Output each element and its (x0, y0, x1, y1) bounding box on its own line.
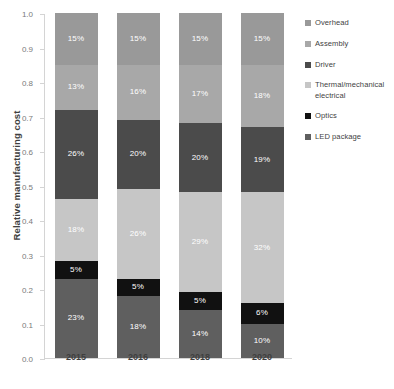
legend-label: LED package (315, 132, 361, 142)
bar-segment: 17% (179, 65, 222, 124)
bar-segment: 5% (117, 279, 160, 296)
bar-segment: 6% (241, 303, 284, 324)
x-axis-label-2016: 2016 (108, 352, 168, 362)
bar-segment: 23% (55, 279, 98, 358)
y-axis-tick-label: 0.8 (22, 79, 33, 88)
legend-swatch-icon (305, 134, 311, 140)
bar-segment-label: 5% (70, 266, 82, 274)
legend-swatch-icon (305, 41, 311, 47)
bar-segment: 15% (117, 13, 160, 65)
bar-segment-label: 32% (254, 244, 271, 252)
stacked-bar-chart: Relative manufacturing cost 0.00.10.20.3… (0, 0, 394, 389)
bar-segment: 5% (55, 261, 98, 278)
bar-segment: 13% (55, 65, 98, 110)
legend-item[interactable]: Optics (305, 111, 394, 121)
bar-2015[interactable]: 23%5%18%26%13%15% (55, 13, 98, 358)
bar-segment-label: 16% (130, 88, 147, 96)
legend-label: Driver (315, 60, 336, 70)
bar-segment: 14% (179, 310, 222, 358)
bar-segment-label: 19% (254, 156, 271, 164)
bar-segment-label: 29% (192, 238, 209, 246)
plot-area: 0.00.10.20.30.40.50.60.70.80.91.0 23%5%1… (44, 14, 292, 359)
bar-segment-label: 20% (130, 150, 147, 158)
y-axis-tick: 0.9 (40, 49, 45, 50)
bar-segment: 18% (117, 296, 160, 358)
legend-label: Optics (315, 111, 337, 121)
legend-item[interactable]: Driver (305, 60, 394, 70)
y-axis-tick: 0.7 (40, 118, 45, 119)
y-axis-tick-label: 0.5 (22, 182, 33, 191)
bar-segment: 32% (241, 192, 284, 302)
legend-item[interactable]: Overhead (305, 18, 394, 28)
bar-segment-label: 5% (194, 297, 206, 305)
bar-2016[interactable]: 18%5%26%20%16%15% (117, 13, 160, 358)
bar-segment-label: 15% (192, 35, 209, 43)
bar-segment-label: 18% (254, 92, 271, 100)
y-axis-tick: 0.5 (40, 187, 45, 188)
bar-segment: 15% (241, 13, 284, 65)
bar-segment: 5% (179, 292, 222, 309)
y-axis-title: Relative manufacturing cost (11, 86, 22, 266)
bar-2018[interactable]: 14%5%29%20%17%15% (179, 13, 222, 358)
y-axis-tick-label: 0.0 (22, 355, 33, 364)
y-axis-tick: 0.3 (40, 256, 45, 257)
bar-segment-label: 13% (68, 83, 85, 91)
bar-segment: 16% (117, 65, 160, 120)
y-axis-tick-label: 0.4 (22, 217, 33, 226)
y-axis-tick-label: 0.6 (22, 148, 33, 157)
x-axis-label-2015: 2015 (46, 352, 106, 362)
bar-segment-label: 10% (254, 337, 271, 345)
y-axis-tick-label: 0.7 (22, 113, 33, 122)
bar-segment-label: 15% (130, 35, 147, 43)
bar-segment: 19% (241, 127, 284, 193)
bar-segment-label: 15% (254, 35, 271, 43)
legend-item[interactable]: Assembly (305, 39, 394, 49)
bar-segment: 29% (179, 192, 222, 292)
bar-segment: 18% (241, 65, 284, 127)
bar-segment-label: 14% (192, 330, 209, 338)
bar-segment-label: 26% (68, 150, 85, 158)
y-axis-tick-label: 0.9 (22, 44, 33, 53)
bar-segment: 20% (179, 123, 222, 192)
bar-segment: 26% (117, 189, 160, 279)
legend-label: Assembly (315, 39, 348, 49)
bar-2020[interactable]: 10%6%32%19%18%15% (241, 13, 284, 358)
bar-segment: 20% (117, 120, 160, 189)
y-axis-tick: 0.4 (40, 221, 45, 222)
bar-segment: 15% (179, 13, 222, 65)
bar-segment-label: 18% (130, 323, 147, 331)
legend-swatch-icon (305, 113, 311, 119)
bar-segment-label: 15% (68, 35, 85, 43)
y-axis-tick-label: 0.1 (22, 320, 33, 329)
y-axis-tick: 1.0 (40, 14, 45, 15)
bar-segment-label: 6% (256, 309, 268, 317)
bar-segment-label: 26% (130, 230, 147, 238)
legend-item[interactable]: Thermal/mechanical electrical (305, 80, 394, 101)
bar-segment-label: 18% (68, 226, 85, 234)
y-axis-tick: 0.8 (40, 83, 45, 84)
bar-segment-label: 17% (192, 90, 209, 98)
legend: OverheadAssemblyDriverThermal/mechanical… (305, 18, 394, 153)
bar-segment-label: 20% (192, 154, 209, 162)
y-axis-tick: 0.6 (40, 152, 45, 153)
y-axis-tick-label: 0.3 (22, 251, 33, 260)
legend-item[interactable]: LED package (305, 132, 394, 142)
y-axis-tick-label: 1.0 (22, 10, 33, 19)
legend-label: Overhead (315, 18, 349, 28)
bar-segment-label: 23% (68, 314, 85, 322)
bar-segment-label: 5% (132, 283, 144, 291)
legend-swatch-icon (305, 82, 311, 88)
x-axis-label-2018: 2018 (170, 352, 230, 362)
y-axis-tick: 0.2 (40, 290, 45, 291)
y-axis-tick: 0.1 (40, 325, 45, 326)
y-axis-tick-label: 0.2 (22, 286, 33, 295)
bar-segment: 26% (55, 110, 98, 200)
legend-swatch-icon (305, 62, 311, 68)
x-axis-label-2020: 2020 (232, 352, 292, 362)
legend-label: Thermal/mechanical electrical (315, 80, 394, 101)
bar-segment: 15% (55, 13, 98, 65)
bar-segment: 18% (55, 199, 98, 261)
y-axis-tick: 0.0 (40, 359, 45, 360)
legend-swatch-icon (305, 20, 311, 26)
